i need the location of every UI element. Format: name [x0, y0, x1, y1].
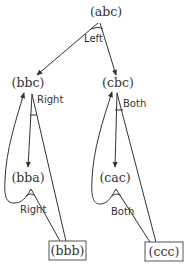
- edge-label-left: Left: [84, 33, 103, 44]
- edge-cac-cbc: [92, 92, 116, 204]
- edge-label-both-2: Both: [111, 206, 134, 217]
- node-bbb: (bbb): [49, 241, 86, 260]
- node-ccc-label: (ccc): [149, 244, 180, 259]
- node-bba: (bba): [11, 170, 44, 185]
- edge-cac-ccc: [116, 189, 155, 250]
- edge-abc-bbc: [37, 23, 98, 75]
- edge-label-right-1: Right: [37, 94, 63, 105]
- edge-bba-bbc: [5, 93, 31, 203]
- edge-abc-cbc: [100, 23, 116, 75]
- edge-cbc-cac: [115, 93, 117, 167]
- state-diagram: (abc) Left (bbc) Right (cbc) Both (bba) …: [0, 0, 194, 271]
- node-cac: (cac): [99, 170, 130, 185]
- node-bbb-label: (bbb): [51, 243, 85, 258]
- edge-label-both-1: Both: [123, 98, 146, 109]
- edge-label-right-2: Right: [20, 204, 46, 215]
- edge-bbc-bba: [28, 94, 32, 167]
- node-cbc: (cbc): [102, 75, 134, 90]
- node-abc: (abc): [90, 4, 122, 19]
- node-bbc: (bbc): [12, 75, 45, 90]
- edges-from-abc: [37, 23, 116, 75]
- node-ccc: (ccc): [145, 242, 183, 261]
